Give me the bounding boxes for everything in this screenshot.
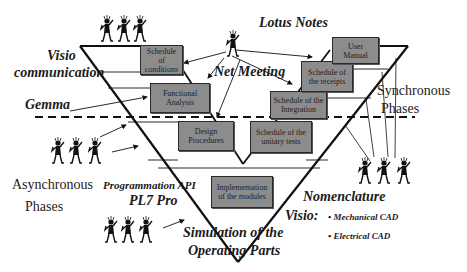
box-line: Schedule of the — [274, 96, 324, 105]
box-integration: Schedule of theIntegration — [270, 91, 327, 119]
label-synchronous-phases-2: Phases — [381, 102, 419, 116]
box-line: Schedule of the — [256, 128, 306, 137]
box-line: Functional — [163, 89, 197, 98]
label-simulation-1: Simulation of the — [183, 226, 283, 240]
box-line: the receipts — [308, 77, 346, 86]
box-user-manual: UserManual — [332, 37, 379, 64]
box-line: Analysis — [163, 98, 197, 107]
people-nomenclature — [359, 157, 410, 183]
label-asynchronous-phases-1: Asynchronous — [12, 178, 93, 192]
people-top-left — [101, 15, 146, 41]
box-line: Design — [188, 127, 224, 136]
label-asynchronous-phases-2: Phases — [25, 200, 63, 214]
label-mechanical-cad: • Mechanical CAD — [328, 213, 398, 222]
box-line: of the modules — [217, 192, 268, 201]
label-programmation-api: Programmation API — [103, 180, 196, 191]
person-net-meeting — [227, 30, 239, 56]
box-line: Manual — [343, 51, 367, 60]
box-line: Schedule of — [308, 68, 346, 77]
box-line: Procedures — [188, 136, 224, 145]
label-nomenclature: Nomenclature — [303, 190, 385, 204]
box-line: Schedule of — [143, 47, 180, 65]
box-unitary-tests: Schedule of theunitary tests — [250, 121, 312, 153]
v-cycle-diagram: Schedule ofconditions FunctionalAnalysis… — [0, 0, 467, 272]
label-synchronous-phases-1: Synchronous — [377, 84, 450, 98]
label-visio: Visio: — [285, 209, 318, 223]
box-receipts: Schedule ofthe receipts — [301, 61, 353, 92]
people-simulation — [105, 216, 152, 242]
box-line: conditions — [143, 65, 180, 74]
box-implementation: Implementationof the modules — [211, 176, 273, 208]
label-pl7-pro: PL7 Pro — [129, 194, 178, 208]
box-line: unitary tests — [256, 137, 306, 146]
label-lotus-notes: Lotus Notes — [259, 16, 328, 30]
label-visio-communication-1: Visio — [47, 49, 76, 63]
label-net-meeting: Net Meeting — [214, 65, 285, 79]
label-visio-communication-2: communication — [14, 66, 104, 80]
box-line: Implementation — [217, 183, 268, 192]
box-design-procedures: DesignProcedures — [178, 121, 234, 151]
people-asynchronous — [52, 137, 101, 163]
label-gemma: Gemma — [25, 98, 70, 112]
label-electrical-cad: • Electrical CAD — [328, 232, 390, 241]
box-line: User — [343, 42, 367, 51]
box-schedule-of-conditions: Schedule ofconditions — [140, 45, 183, 75]
label-simulation-2: Operating Parts — [188, 244, 280, 258]
box-line: Integration — [274, 105, 324, 114]
box-functional-analysis: FunctionalAnalysis — [150, 83, 210, 113]
